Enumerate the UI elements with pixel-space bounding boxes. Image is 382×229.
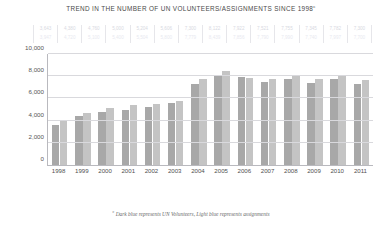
bar-volunteers [238,77,246,165]
data-table-cell: 5,100 [82,34,105,43]
data-table-cell: 7,856 [227,34,250,43]
gridline [48,142,373,143]
x-axis-tick-label: 2000 [93,167,116,174]
bar-group [234,54,257,165]
bar-assignments [176,101,184,165]
gridline [48,120,373,121]
y-axis-tick-label: 6,000 [29,88,44,95]
bar-group [94,54,117,165]
data-table-column: 5,6065,800 [154,25,178,43]
data-table-cell: 7,922 [227,25,250,34]
chart-title: TREND IN THE NUMBER OF UN VOLUNTEERS/ASS… [0,4,382,12]
x-axis-tick-label: 2009 [302,167,325,174]
data-table-column: 4,3804,720 [57,25,81,43]
bar-group [350,54,373,165]
bar-group [211,54,234,165]
data-table-column: 7,7827,997 [323,25,347,43]
data-table-cell: 7,300 [348,25,371,34]
data-table-column: 7,7557,990 [274,25,298,43]
bar-assignments [292,76,300,165]
bar-volunteers [52,125,60,165]
title-footnote-marker: c [313,4,316,9]
data-table-cell: 7,782 [324,25,347,34]
chart-figure: TREND IN THE NUMBER OF UN VOLUNTEERS/ASS… [0,0,382,229]
bar-assignments [199,79,207,165]
x-axis-tick-label: 2011 [349,167,372,174]
bar-volunteers [145,107,153,165]
data-table-column: 5,0005,400 [105,25,129,43]
data-table-cell: 5,606 [155,25,178,34]
x-axis-tick-label: 2004 [186,167,209,174]
data-table-column: 7,5217,790 [250,25,274,43]
data-table-cell: 8,439 [203,34,226,43]
data-table-cell: 7,740 [300,34,323,43]
x-axis-tick-label: 2010 [326,167,349,174]
bar-volunteers [354,84,362,165]
bar-assignments [222,71,230,165]
data-table-cell: 7,700 [348,34,371,43]
bar-group [141,54,164,165]
bar-assignments [246,78,254,165]
data-table-cell: 7,997 [324,34,347,43]
data-table-column: 4,7605,100 [81,25,105,43]
bar-group [48,54,71,165]
x-axis-tick-label: 2008 [279,167,302,174]
y-axis-tick-label: 4,000 [29,110,44,117]
x-axis-tick-label: 2005 [210,167,233,174]
bar-assignments [106,108,114,165]
chart-footnote: c Dark blue represents UN Volunteers, Li… [0,209,382,217]
data-table: 3,6433,9474,3804,7204,7605,1005,0005,400… [33,25,372,43]
data-table-cell: 5,204 [131,25,154,34]
data-table-cell: 5,000 [106,25,129,34]
data-table-cell: 8,122 [203,25,226,34]
data-table-cell: 7,300 [179,25,202,34]
bar-assignments [362,80,370,165]
data-table-cell: 7,345 [300,25,323,34]
bar-assignments [338,76,346,165]
gridline [48,75,373,76]
data-table-cell: 7,521 [251,25,274,34]
x-axis-tick-label: 2007 [256,167,279,174]
y-axis-tick-label: 8,000 [29,66,44,73]
footnote-text: Dark blue represents UN Volunteers, Ligh… [116,211,270,217]
y-axis-tick-label: 2,000 [29,132,44,139]
y-axis-tick-label: 0 [41,155,44,162]
data-table-cell: 7,755 [275,25,298,34]
bar-group [164,54,187,165]
data-table-cell: 3,947 [34,34,57,43]
x-axis-tick-label: 2002 [140,167,163,174]
bar-assignments [60,121,68,165]
bar-volunteers [261,82,269,165]
bar-assignments [269,79,277,165]
gridline [48,97,373,98]
plot-area: 02,0004,0006,0008,00010,000 [47,54,373,166]
bar-volunteers [191,84,199,165]
bar-volunteers [122,110,130,166]
bar-group [71,54,94,165]
x-axis-tick-label: 1998 [47,167,70,174]
x-axis-tick-label: 1999 [70,167,93,174]
bar-group [118,54,141,165]
data-table-cell: 4,380 [58,25,81,34]
bar-group [303,54,326,165]
gridline [48,53,373,54]
bar-assignments [153,104,161,165]
data-table-column: 7,3457,740 [299,25,323,43]
bar-volunteers [75,116,83,165]
data-table-cell: 4,760 [82,25,105,34]
x-axis-tick-label: 2003 [163,167,186,174]
bar-volunteers [168,103,176,165]
data-table-column: 7,9227,856 [226,25,250,43]
x-axis-labels: 1998199920002001200220032004200520062007… [47,167,372,174]
y-axis-tick-label: 10,000 [25,44,44,51]
chart-title-text: TREND IN THE NUMBER OF UN VOLUNTEERS/ASS… [66,5,313,12]
x-axis-tick-label: 2001 [117,167,140,174]
data-table-cell: 4,720 [58,34,81,43]
bar-group [187,54,210,165]
data-table-column: 3,6433,947 [33,25,57,43]
data-table-cell: 7,790 [251,34,274,43]
data-table-column: 5,2045,504 [130,25,154,43]
data-table-column: 7,3007,779 [178,25,202,43]
footnote-marker: c [112,209,114,214]
bar-volunteers [330,79,338,165]
